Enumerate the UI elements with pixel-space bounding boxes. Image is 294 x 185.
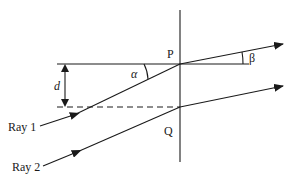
alpha-angle-arc xyxy=(144,64,148,79)
arrow-down-icon xyxy=(61,99,69,107)
ray-2 xyxy=(43,86,283,166)
arrow-up-icon xyxy=(61,64,69,72)
point-p-label: P xyxy=(167,47,174,61)
ray-diagram: d α β P Q Ray 1 Ray 2 xyxy=(0,0,294,185)
point-q-label: Q xyxy=(164,124,173,138)
beta-label: β xyxy=(249,51,255,65)
ray-2-label: Ray 2 xyxy=(12,160,40,174)
ray-1 xyxy=(40,44,283,126)
distance-label: d xyxy=(54,79,61,93)
alpha-label: α xyxy=(131,67,138,81)
ray-1-label: Ray 1 xyxy=(8,120,36,134)
distance-d-indicator xyxy=(61,64,69,107)
beta-angle-arc xyxy=(242,52,243,64)
